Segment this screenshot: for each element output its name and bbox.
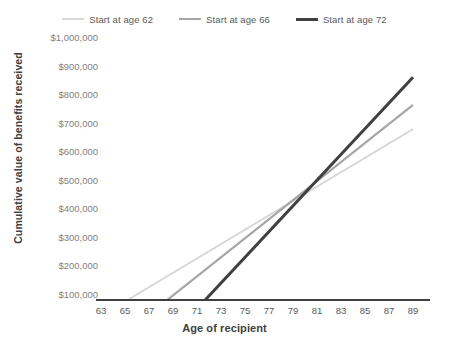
x-tick-label: 83 [336, 305, 347, 317]
x-tick-label: 73 [216, 305, 227, 317]
y-tick-label: $300,000 [36, 233, 98, 243]
x-tick-label: 75 [240, 305, 251, 317]
x-axis-line [96, 299, 430, 301]
y-tick-label: $1,000,000 [36, 33, 98, 43]
x-tick-label: 81 [312, 305, 323, 317]
chart-legend: Start at age 62Start at age 66Start at a… [0, 10, 449, 28]
x-tick-label: 63 [96, 305, 107, 317]
x-tick-label: 69 [168, 305, 179, 317]
y-tick-label: $400,000 [36, 204, 98, 214]
x-tick-label: 67 [144, 305, 155, 317]
legend-swatch-icon [62, 18, 84, 20]
y-tick-label: $500,000 [36, 176, 98, 186]
series-line-2 [197, 77, 413, 300]
x-axis-title: Age of recipient [0, 322, 449, 334]
y-tick-label: $700,000 [36, 119, 98, 129]
legend-label: Start at age 62 [89, 14, 153, 25]
x-tick-label: 89 [408, 305, 419, 317]
series-lines [101, 38, 431, 300]
legend-item-1[interactable]: Start at age 66 [179, 14, 270, 25]
legend-swatch-icon [296, 18, 318, 21]
y-tick-label: $800,000 [36, 90, 98, 100]
legend-item-0[interactable]: Start at age 62 [62, 14, 153, 25]
y-tick-label: $600,000 [36, 147, 98, 157]
y-axis-tick-labels: $100,000$200,000$300,000$400,000$500,000… [36, 28, 98, 304]
x-tick-label: 85 [360, 305, 371, 317]
y-axis-title: Cumulative value of benefits received [12, 23, 24, 273]
y-tick-label: $200,000 [36, 261, 98, 271]
series-line-0 [101, 129, 413, 300]
legend-item-2[interactable]: Start at age 72 [296, 14, 387, 25]
y-tick-label: $900,000 [36, 62, 98, 72]
x-tick-label: 79 [288, 305, 299, 317]
y-tick-label: $100,000 [36, 290, 98, 300]
x-tick-label: 87 [384, 305, 395, 317]
series-line-1 [149, 105, 413, 300]
x-tick-label: 71 [192, 305, 203, 317]
legend-swatch-icon [179, 18, 201, 20]
legend-label: Start at age 66 [206, 14, 270, 25]
x-axis-tick-labels: 6365676971737577798183858789 [101, 305, 431, 319]
x-tick-label: 65 [120, 305, 131, 317]
plot-area [101, 38, 431, 300]
x-tick-label: 77 [264, 305, 275, 317]
chart-container: Start at age 62Start at age 66Start at a… [0, 0, 449, 353]
legend-label: Start at age 72 [323, 14, 387, 25]
